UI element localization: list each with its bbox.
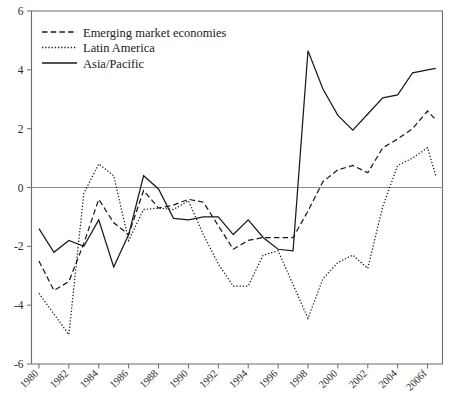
- series-line-dashed: [39, 111, 436, 290]
- y-tick-label: 0: [18, 182, 24, 194]
- x-tick-label: 1990: [167, 368, 190, 391]
- x-tick-label: 2000: [317, 368, 340, 391]
- legend-label: Latin America: [83, 41, 155, 55]
- legend-label: Asia/Pacific: [83, 57, 145, 71]
- y-tick-label: -2: [14, 240, 24, 252]
- x-tick-label: 1996: [257, 368, 280, 391]
- x-tick-label: 2004: [376, 367, 399, 390]
- x-tick-label: 1994: [227, 367, 250, 390]
- x-tick-label: 1998: [287, 368, 310, 391]
- y-axis-ticks: 6420-2-4-6: [14, 5, 32, 370]
- line-chart: 6420-2-4-6 19801982198419861988199019921…: [0, 0, 452, 417]
- x-tick-label: 2002: [347, 368, 370, 391]
- x-tick-label: 1992: [197, 368, 220, 391]
- chart-container: 6420-2-4-6 19801982198419861988199019921…: [0, 0, 452, 417]
- x-tick-label: 1986: [107, 368, 130, 391]
- series-line-dotted: [39, 148, 436, 335]
- x-axis-ticks: 1980198219841986198819901992199419961998…: [18, 364, 430, 393]
- y-tick-label: 2: [18, 123, 24, 135]
- legend-label: Emerging market economies: [83, 26, 227, 40]
- y-tick-label: 6: [18, 5, 24, 17]
- y-tick-label: 4: [18, 64, 24, 76]
- x-tick-label: 1984: [78, 367, 101, 390]
- x-tick-label: 2006f: [404, 367, 429, 392]
- y-tick-label: -6: [14, 358, 24, 370]
- x-tick-label: 1980: [18, 368, 41, 391]
- series-lines: [39, 51, 436, 335]
- chart-legend: Emerging market economiesLatin AmericaAs…: [42, 26, 227, 71]
- x-tick-label: 1988: [137, 368, 160, 391]
- y-tick-label: -4: [14, 299, 24, 311]
- x-tick-label: 1982: [48, 368, 71, 391]
